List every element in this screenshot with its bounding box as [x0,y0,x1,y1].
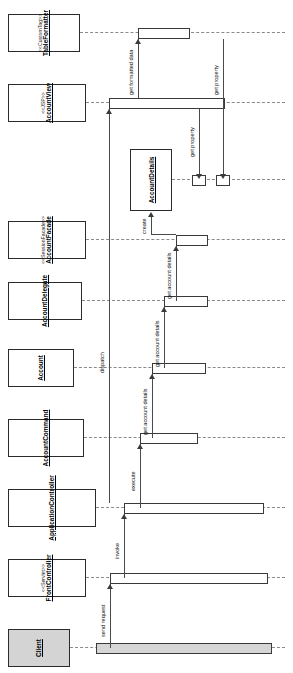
lifeline-name-account-facade: AccountFacade [46,216,53,264]
message-line-get-property-1 [199,109,200,175]
message-line-get-account-details-1 [152,374,153,438]
lifeline-name-account-view: AccountView [46,83,53,123]
lifeline-head-application-controller[interactable]: ApplicationController [8,489,96,527]
object-name-account-details: AccountDetails [148,157,155,204]
lifeline-name-client: Client [36,639,43,657]
lifeline-name-account-command: AccountCommand [43,410,50,467]
activation-application-controller[interactable] [124,503,264,514]
message-label-get-formatted-data: get formatted data [129,50,135,95]
arrowhead-create [148,212,154,217]
message-label-create: create [142,218,148,234]
arrowhead-get-formatted-data [135,39,141,44]
message-label-get-property-1: get property [190,127,196,157]
arrowhead-dispatch [106,109,112,114]
message-label-send-request: send request [101,605,107,637]
message-line-send-request [110,584,111,648]
arrowhead-get-property-2 [220,174,226,179]
lifeline-name-account-delegate: AccountDelegate [42,275,49,327]
activation-front-controller[interactable] [110,573,268,584]
lifeline-head-account-delegate[interactable]: AccountDelegate [8,282,82,320]
message-label-get-account-details-2: get account details [155,320,161,367]
lifeline-head-account[interactable]: Account [8,349,74,387]
message-label-get-account-details-3: get account details [167,252,173,299]
sequence-diagram-canvas: Client <<Servlet>> FrontController Appli… [0,0,293,673]
lifeline-head-table-formatter[interactable]: <<CustomTag>> TableFormatter [8,14,80,52]
lifeline-name-table-formatter: TableFormatter [43,10,50,56]
arrowhead-get-account-details-3 [173,246,179,251]
lifeline-head-front-controller[interactable]: <<Servlet>> FrontController [8,559,86,597]
message-line-execute [140,444,141,508]
arrowhead-execute [137,444,143,449]
arrowhead-send-request [107,584,113,589]
rotation-wrapper: Client <<Servlet>> FrontController Appli… [0,0,293,673]
arrowhead-get-account-details-1 [149,374,155,379]
activation-account-facade[interactable] [176,235,208,246]
message-stem-create [151,234,176,235]
lifeline-name-account: Account [38,355,45,381]
message-line-dispatch [109,109,110,503]
message-line-create [151,216,152,235]
lifeline-head-account-view[interactable]: <<JSP>> AccountView [8,84,86,122]
diagram-page: Client <<Servlet>> FrontController Appli… [0,0,293,673]
activation-client[interactable] [96,643,272,654]
message-label-dispatch: dispatch [100,352,106,373]
activation-table-formatter[interactable] [138,28,190,39]
message-label-execute: execute [131,471,137,491]
message-line-get-formatted-data [138,39,139,98]
message-label-invoke: invoke [115,543,121,559]
activation-account-command[interactable] [140,433,198,444]
message-line-get-account-details-2 [164,307,165,368]
lifeline-head-account-command[interactable]: AccountCommand [8,419,84,457]
activation-account-view[interactable] [109,98,225,109]
lifeline-head-account-facade[interactable]: <<SessionFacade>> AccountFacade [8,221,86,259]
lifeline-name-application-controller: ApplicationController [49,475,56,540]
arrowhead-get-property-1 [196,174,202,179]
message-line-invoke [124,514,125,578]
message-label-get-account-details-1: get account details [143,388,149,435]
message-label-get-property-2: get property [214,65,220,95]
object-box-account-details[interactable]: AccountDetails [130,149,172,211]
lifeline-head-client[interactable]: Client [8,629,70,667]
message-line-get-property-2 [223,39,224,175]
arrowhead-get-account-details-2 [161,307,167,312]
lifeline-name-front-controller: FrontController [46,555,53,602]
arrowhead-invoke [121,514,127,519]
message-line-get-account-details-3 [176,246,177,301]
